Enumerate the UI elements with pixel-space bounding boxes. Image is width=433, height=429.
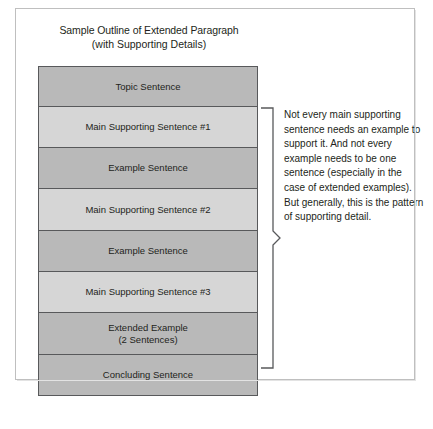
- outline-box-label: Extended Example (2 Sentences): [102, 322, 194, 346]
- outline-box-label: Topic Sentence: [110, 81, 187, 93]
- curly-brace-icon: [259, 107, 281, 369]
- supporting-detail-note: Not every main supporting sentence needs…: [284, 108, 424, 225]
- outline-box-label: Main Supporting Sentence #2: [79, 204, 216, 216]
- outline-box-topic-sentence: Topic Sentence: [38, 66, 258, 107]
- paragraph-outline-stack: Topic Sentence Main Supporting Sentence …: [38, 66, 258, 396]
- outline-box-label-sub: (2 Sentences): [108, 334, 188, 346]
- outline-box-label: Example Sentence: [102, 162, 194, 174]
- outline-box-extended-example: Extended Example (2 Sentences): [38, 312, 258, 355]
- figure-page: Sample Outline of Extended Paragraph (wi…: [0, 0, 433, 429]
- outline-box-concluding-sentence: Concluding Sentence: [38, 354, 258, 396]
- figure-title-line-1: Sample Outline of Extended Paragraph: [38, 23, 260, 37]
- outline-box-main-supporting-2: Main Supporting Sentence #2: [38, 188, 258, 231]
- figure-frame: Sample Outline of Extended Paragraph (wi…: [15, 8, 415, 380]
- outline-box-label: Example Sentence: [102, 245, 194, 257]
- outline-box-main-supporting-1: Main Supporting Sentence #1: [38, 106, 258, 148]
- figure-title-line-2: (with Supporting Details): [38, 37, 260, 51]
- outline-box-label: Concluding Sentence: [97, 369, 199, 381]
- outline-box-example-sentence-1: Example Sentence: [38, 147, 258, 189]
- outline-box-main-supporting-3: Main Supporting Sentence #3: [38, 271, 258, 313]
- outline-box-example-sentence-2: Example Sentence: [38, 230, 258, 272]
- outline-box-label: Main Supporting Sentence #3: [79, 286, 216, 298]
- outline-box-label-main: Extended Example: [108, 322, 188, 333]
- figure-title: Sample Outline of Extended Paragraph (wi…: [38, 23, 260, 51]
- outline-box-label: Main Supporting Sentence #1: [79, 121, 216, 133]
